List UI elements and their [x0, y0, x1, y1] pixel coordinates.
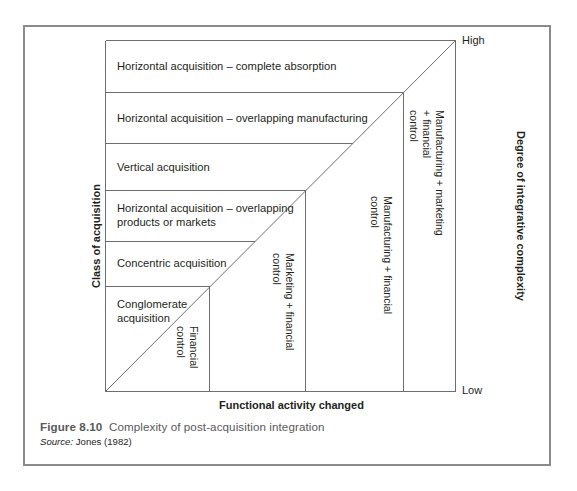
row-label-4: Horizontal acquisition – overlapping pro… — [117, 201, 294, 229]
column-label-2: Marketing + financial control — [270, 253, 296, 350]
y-axis-title-left: Class of acquisition — [90, 184, 102, 288]
y-axis-title-right: Degree of integrative complexity — [515, 131, 527, 301]
x-axis-title: Functional activity changed — [219, 399, 364, 411]
row-label-2: Horizontal acquisition – overlapping man… — [117, 111, 368, 125]
column-label-4: Manufacturing + marketing + financial co… — [407, 110, 446, 241]
row-label-1: Horizontal acquisition – complete absorp… — [117, 59, 337, 73]
caption-title-line: Figure 8.10 Complexity of post-acquisiti… — [40, 420, 510, 433]
source-text: Jones (1982) — [76, 436, 132, 447]
figure-number: Figure 8.10 — [40, 420, 102, 433]
row-label-3: Vertical acquisition — [117, 160, 210, 174]
figure-caption: Figure 8.10 Complexity of post-acquisiti… — [40, 420, 510, 447]
source-prefix: Source: — [40, 436, 73, 447]
figure-page: Horizontal acquisition – complete absorp… — [0, 0, 577, 491]
scale-mark-high: High — [462, 34, 485, 46]
caption-source-line: Source: Jones (1982) — [40, 436, 510, 447]
caption-gap — [102, 420, 109, 433]
row-label-5: Concentric acquisition — [117, 256, 226, 270]
scale-mark-low: Low — [462, 384, 482, 396]
figure-title: Complexity of post-acquisition integrati… — [109, 420, 325, 433]
column-label-3: Manufacturing + financial control — [368, 196, 394, 314]
column-label-1: Financial control — [174, 326, 200, 368]
row-label-6: Conglomerate acquisition — [117, 297, 187, 325]
